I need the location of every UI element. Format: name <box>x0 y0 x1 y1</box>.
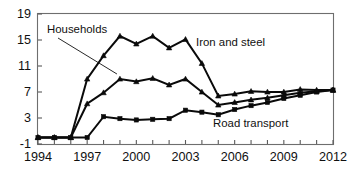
data-point-marker <box>183 108 187 112</box>
data-point-marker <box>167 117 171 121</box>
data-point-marker <box>233 107 237 111</box>
x-tick-label: 2009 <box>270 150 298 164</box>
data-point-marker <box>52 135 56 139</box>
y-axis-tick-labels: -137111519 <box>17 7 31 151</box>
data-point-marker <box>36 135 40 139</box>
x-tick-label: 1997 <box>73 150 101 164</box>
data-point-marker <box>298 93 302 97</box>
data-series-group <box>38 36 333 137</box>
y-tick-label: 7 <box>24 85 31 99</box>
chart-canvas: -137111519 1994199720002003200620092012 … <box>0 0 354 172</box>
x-tick-label: 1994 <box>24 150 52 164</box>
x-axis-ticks <box>38 140 333 144</box>
data-point-marker <box>117 33 122 38</box>
y-tick-label: 11 <box>18 59 31 73</box>
data-point-marker <box>150 33 155 38</box>
data-point-marker <box>282 96 286 100</box>
series-label-iron-and-steel: Iron and steel <box>196 36 265 48</box>
x-tick-label: 2006 <box>221 150 249 164</box>
data-point-marker <box>151 117 155 121</box>
y-axis-ticks <box>38 14 42 144</box>
x-axis-tick-labels: 1994199720002003200620092012 <box>24 150 347 164</box>
data-marker-group <box>35 33 335 139</box>
series-line-iron-and-steel <box>38 36 333 137</box>
data-point-marker <box>118 117 122 121</box>
data-point-marker <box>101 115 105 119</box>
data-point-marker <box>85 135 89 139</box>
data-point-marker <box>183 37 188 42</box>
households-leader-line <box>58 38 117 74</box>
y-tick-label: 15 <box>17 33 31 47</box>
line-chart-figure: -137111519 1994199720002003200620092012 … <box>0 0 354 172</box>
data-point-marker <box>134 118 138 122</box>
data-point-marker <box>331 88 335 92</box>
series-label-households: Households <box>47 23 107 35</box>
y-tick-label: 19 <box>17 7 31 21</box>
y-tick-label: 3 <box>24 111 31 125</box>
x-tick-label: 2000 <box>122 150 150 164</box>
series-label-road-transport: Road transport <box>213 117 289 129</box>
data-point-marker <box>200 110 204 114</box>
x-tick-label: 2012 <box>319 150 347 164</box>
data-point-marker <box>315 90 319 94</box>
data-point-marker <box>249 104 253 108</box>
x-tick-label: 2003 <box>171 150 199 164</box>
data-point-marker <box>69 135 73 139</box>
data-point-marker <box>265 100 269 104</box>
